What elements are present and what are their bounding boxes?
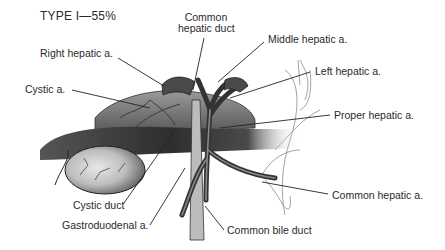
label-common-hepatic-duct: Common hepatic duct xyxy=(178,12,234,34)
label-common-hepatic-a: Common hepatic a. xyxy=(332,190,423,201)
leader-gastroduodenal xyxy=(150,168,185,225)
label-gastroduodenal-a: Gastroduodenal a. xyxy=(62,220,148,231)
illustration xyxy=(0,0,445,250)
anatomy-diagram: TYPE I—55% Common hepatic duct Middle he… xyxy=(0,0,445,250)
label-common-bile-duct: Common bile duct xyxy=(227,225,312,236)
leader-common-bile-duct xyxy=(205,206,224,230)
label-proper-hepatic-a: Proper hepatic a. xyxy=(334,110,414,121)
leader-right-hepatic xyxy=(118,58,164,86)
label-right-hepatic-a: Right hepatic a. xyxy=(40,48,113,59)
label-middle-hepatic-a: Middle hepatic a. xyxy=(268,34,347,45)
leader-middle-hepatic xyxy=(218,42,264,82)
label-left-hepatic-a: Left hepatic a. xyxy=(315,66,381,77)
label-common-hepatic-duct-line2: hepatic duct xyxy=(178,23,234,34)
label-cystic-a: Cystic a. xyxy=(25,84,65,95)
label-cystic-duct: Cystic duct xyxy=(73,200,124,211)
figure-title: TYPE I—55% xyxy=(40,11,116,22)
